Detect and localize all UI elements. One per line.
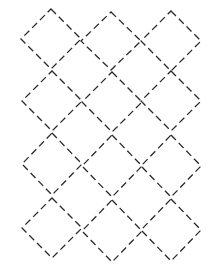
background xyxy=(0,0,209,268)
dashed-diamond-lattice xyxy=(0,0,209,268)
